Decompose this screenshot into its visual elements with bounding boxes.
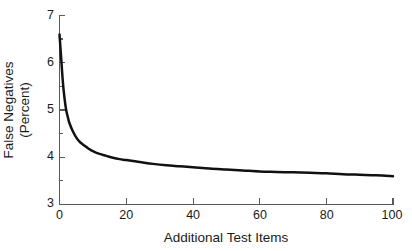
y-tick-label-7: 7 — [47, 8, 54, 22]
x-axis-title: Additional Test Items — [164, 230, 289, 245]
chart-plot-area: 7 6 5 4 3 0 20 40 60 80 100 Additional T… — [0, 0, 412, 251]
y-tick-label-6: 6 — [47, 55, 54, 69]
x-tick-label-0: 0 — [56, 208, 63, 222]
x-tick-label-100: 100 — [382, 208, 403, 222]
x-tick-label-60: 60 — [253, 208, 267, 222]
y-tick-label-5: 5 — [47, 102, 54, 116]
y-axis-title-line2: (Percent) — [17, 82, 32, 138]
chart-figure: 7 6 5 4 3 0 20 40 60 80 100 Additional T… — [0, 0, 412, 251]
y-tick-label-3: 3 — [47, 196, 54, 210]
y-axis-title-line1: False Negatives — [1, 61, 16, 158]
x-axis-ticks — [60, 198, 394, 205]
data-series-line — [60, 34, 394, 176]
x-tick-label-40: 40 — [186, 208, 200, 222]
y-axis-title: False Negatives (Percent) — [1, 61, 32, 158]
x-tick-label-20: 20 — [119, 208, 133, 222]
y-tick-label-4: 4 — [47, 149, 54, 163]
x-tick-label-80: 80 — [320, 208, 334, 222]
